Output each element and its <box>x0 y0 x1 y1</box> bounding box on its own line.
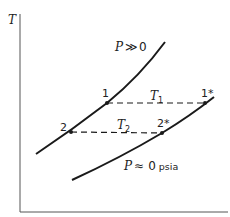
state-label-1-star: 1* <box>201 87 214 100</box>
state-point-2-star <box>160 131 164 135</box>
temperature-pressure-diagram: T P≫0 P≈0psia T1 T2 1 2 1* 2* <box>0 0 230 217</box>
isotherm-t2-label: T2 <box>117 118 130 134</box>
state-point-2 <box>69 130 73 134</box>
isotherm-t2 <box>71 132 162 133</box>
high-pressure-label: P≫0 <box>114 40 147 54</box>
state-point-1 <box>105 101 109 105</box>
state-label-1: 1 <box>102 87 109 100</box>
state-label-2: 2 <box>60 121 67 134</box>
isotherm-t1-label: T1 <box>150 89 163 105</box>
state-point-1-star <box>203 101 207 105</box>
y-axis-label: T <box>8 13 17 27</box>
state-label-2-star: 2* <box>157 117 170 130</box>
zero-pressure-label: P≈0psia <box>123 159 178 173</box>
high-pressure-curve <box>36 42 165 154</box>
